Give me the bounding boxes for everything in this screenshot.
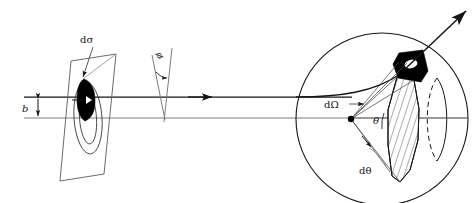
phi-angle-arc	[156, 72, 167, 78]
impact-parameter-label: b	[22, 103, 28, 114]
solid-angle-band-group	[385, 74, 423, 186]
scattered-particle-arrow	[404, 11, 466, 70]
scattering-center-dot	[348, 116, 354, 122]
scattering-diagram-canvas: b dσ ϕ	[0, 0, 474, 203]
sphere-meridian-back	[427, 78, 437, 161]
theta-angle-group: θ	[373, 113, 384, 129]
phi-label: ϕ	[153, 52, 164, 60]
sphere-meridian-front	[437, 78, 447, 161]
d-theta-arrow	[362, 136, 371, 147]
d-omega-label: dΩ	[324, 99, 339, 110]
theta-angle-arc	[382, 113, 384, 129]
target-plane-group	[60, 54, 116, 181]
azimuth-angle-group: ϕ	[152, 48, 172, 122]
scattering-diagram-figure: b dσ ϕ	[0, 0, 474, 203]
d-theta-label: dθ	[359, 165, 371, 176]
plane-corner-guide	[83, 54, 116, 79]
theta-label: θ	[373, 115, 379, 126]
d-sigma-label: dσ	[80, 34, 93, 45]
impact-parameter-group: b	[22, 99, 38, 116]
surface-patch-group	[393, 50, 428, 82]
phi-radial-line	[152, 55, 165, 120]
d-theta-callout: dθ	[359, 136, 386, 176]
d-omega-callout: dΩ	[324, 99, 364, 110]
phi-reference-line	[164, 48, 172, 122]
